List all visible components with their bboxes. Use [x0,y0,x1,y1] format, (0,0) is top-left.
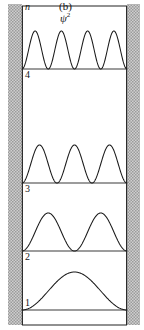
level-label-2: 2 [25,252,30,262]
wavefunction-plot [0,0,144,330]
psi-squared-curve-n1 [22,272,127,310]
psi-squared-curves [22,31,127,310]
psi-squared-curve-n2 [22,213,127,251]
right-wall-hatch [127,4,140,325]
level-label-1: 1 [25,298,30,308]
psi-squared-curve-n3 [22,145,127,183]
level-label-3: 3 [25,184,30,194]
axis-label-n: n [25,2,30,12]
left-wall-hatch [8,4,22,325]
psi-exponent: 2 [67,11,71,19]
psi-symbol: ψ [60,12,67,24]
level-baselines [22,69,127,310]
psi-squared-curve-n4 [22,31,127,69]
psi-squared-label: ψ2 [60,12,70,24]
probability-density-figure: n (b) ψ2 4 3 2 1 [0,0,144,330]
level-label-4: 4 [25,70,30,80]
well-frame [22,6,127,325]
